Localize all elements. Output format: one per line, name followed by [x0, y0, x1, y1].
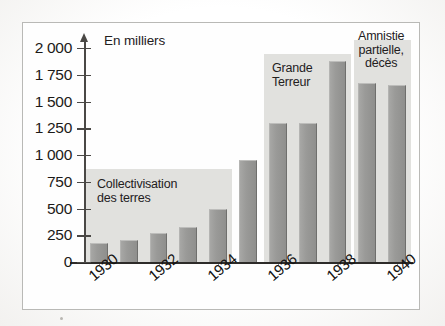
y-axis-tick [77, 209, 91, 210]
y-axis-tick [77, 102, 91, 103]
bar-chart: Collectivisation des terresGrande Terreu… [0, 0, 445, 326]
bar [179, 227, 197, 262]
y-axis-tick [77, 128, 91, 129]
y-axis-tick-label: 1 000 [10, 146, 72, 164]
y-axis-tick-label: 1 750 [10, 66, 72, 84]
bar [299, 123, 317, 262]
y-axis-tick [77, 182, 91, 183]
annotation-band-label: Grande Terreur [272, 62, 313, 89]
bar [358, 83, 376, 262]
annotation-band-label: Collectivisation des terres [97, 178, 177, 205]
annotation-band-label: Amnistie partielle, décès [358, 30, 404, 71]
bar [269, 123, 287, 262]
y-axis-tick [77, 48, 91, 49]
bar [120, 240, 138, 262]
y-axis-tick-label: 500 [10, 200, 72, 218]
y-axis-line [84, 40, 86, 263]
bar [239, 160, 257, 262]
y-axis-tick-label: 750 [10, 173, 72, 191]
page-artifact-dot [60, 317, 63, 320]
bar [329, 61, 347, 262]
y-axis-tick-label: 1 500 [10, 93, 72, 111]
y-axis-tick [77, 155, 91, 156]
y-axis-unit-caption: En milliers [104, 33, 165, 48]
y-axis-tick-label: 2 000 [10, 39, 72, 57]
y-axis-tick-label: 1 250 [10, 119, 72, 137]
bar [388, 85, 406, 262]
x-axis-line [70, 262, 413, 264]
y-axis-tick [77, 235, 91, 236]
y-axis-tick [77, 262, 91, 263]
y-axis-arrow-icon [80, 33, 88, 42]
y-axis-tick [77, 75, 91, 76]
y-axis-tick-label: 0 [10, 253, 72, 271]
y-axis-tick-label: 250 [10, 226, 72, 244]
